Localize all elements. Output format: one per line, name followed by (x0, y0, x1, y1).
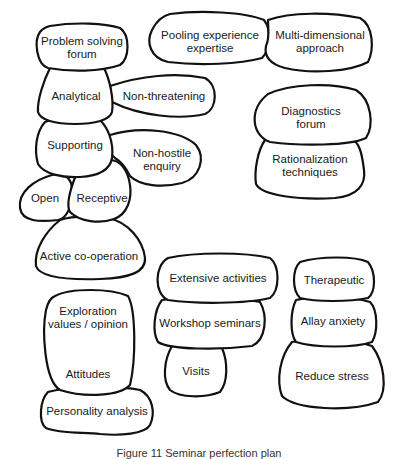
node-attitudes: Attitudes (66, 368, 111, 381)
node-label-line: values / opinion (48, 318, 128, 331)
node-analytical: Analytical (51, 90, 100, 103)
node-supporting: Supporting (47, 139, 103, 152)
node-label-line: forum (281, 118, 340, 131)
node-receptive: Receptive (76, 192, 127, 205)
node-multi-dimensional: Multi-dimensional approach (275, 29, 364, 55)
node-therapeutic: Therapeutic (304, 274, 365, 287)
node-non-threatening: Non-threatening (123, 90, 205, 103)
node-active-co-operation: Active co-operation (40, 250, 138, 263)
node-label-line: Non-hostile (133, 147, 191, 160)
node-problem-solving-forum: Problem solving forum (41, 35, 123, 61)
node-reduce-stress: Reduce stress (295, 370, 369, 383)
node-label-line: Multi-dimensional (275, 29, 364, 42)
node-label-line: forum (41, 48, 123, 61)
node-label-line: techniques (272, 166, 347, 179)
node-visits: Visits (182, 365, 209, 378)
node-label-line: Problem solving (41, 35, 123, 48)
node-extensive-activities: Extensive activities (169, 272, 266, 285)
node-workshop-seminars: Workshop seminars (159, 317, 260, 330)
node-non-hostile-enquiry: Non-hostile enquiry (133, 147, 191, 173)
node-exploration: Exploration values / opinion (48, 305, 128, 331)
bubble-active-co-operation (36, 217, 145, 280)
node-label-line: Diagnostics (281, 105, 340, 118)
node-allay-anxiety: Allay anxiety (301, 315, 366, 328)
node-personality-analysis: Personality analysis (46, 405, 148, 418)
node-label-line: expertise (161, 42, 259, 55)
node-diagnostics-forum: Diagnostics forum (281, 105, 340, 131)
node-label-line: enquiry (133, 160, 191, 173)
node-rationalization-techniques: Rationalization techniques (272, 153, 347, 179)
figure-caption: Figure 11 Seminar perfection plan (117, 447, 282, 459)
node-label-line: Rationalization (272, 153, 347, 166)
node-label-line: approach (275, 42, 364, 55)
node-pooling-experience: Pooling experience expertise (161, 29, 259, 55)
node-label-line: Pooling experience (161, 29, 259, 42)
node-label-line: Exploration (48, 305, 128, 318)
node-open: Open (31, 192, 59, 205)
